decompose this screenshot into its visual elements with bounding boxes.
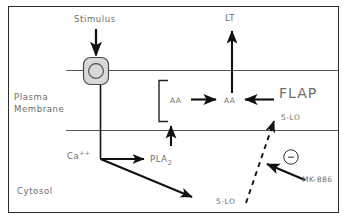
cytosolic-5lo-label: 5-LO: [216, 196, 235, 207]
flap-5lo-label: 5-LO: [281, 112, 300, 123]
calcium-charge: ++: [79, 149, 90, 156]
flap-label: FLAP: [279, 88, 317, 99]
leukotriene-label: LT: [225, 13, 235, 24]
pla2-label: PLA2: [150, 154, 172, 169]
mk886-label: MK-886: [302, 174, 333, 185]
aa-membrane-label: AA: [224, 95, 235, 106]
pla2-base: PLA: [150, 154, 168, 164]
calcium-symbol: Ca: [67, 151, 79, 161]
calcium-label: Ca++: [67, 147, 90, 162]
aa-bracketed-label: AA: [170, 95, 181, 106]
stimulus-label: Stimulus: [74, 14, 116, 25]
diagram-canvas: Stimulus LT Plasma Membrane AA AA FLAP 5…: [0, 0, 348, 222]
pla2-subscript: 2: [168, 159, 173, 167]
plasma-membrane-label-line2: Membrane: [14, 104, 64, 115]
cytosol-label: Cytosol: [17, 186, 53, 197]
plasma-membrane-label-line1: Plasma: [14, 92, 48, 103]
